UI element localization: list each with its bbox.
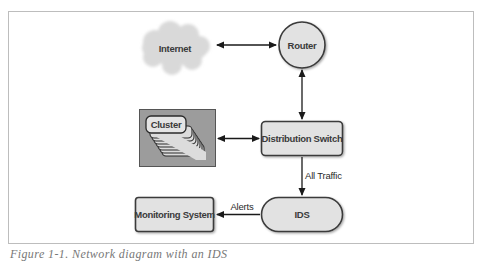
distribution-switch-label: Distribution Switch [262,133,343,144]
distribution-switch-node: Distribution Switch [262,122,343,156]
alerts-label: Alerts [230,201,254,212]
cluster-node: Cluster [140,110,216,167]
internet-label: Internet [159,43,193,54]
monitoring-system-label: Monitoring System [134,209,214,220]
ids-label: IDS [295,209,310,220]
ids-node: IDS [262,198,343,232]
monitoring-system-node: Monitoring System [134,198,214,232]
cluster-label: Cluster [151,119,182,130]
figure-caption: Figure 1-1. Network diagram with an IDS [10,247,227,262]
router-label: Router [288,40,317,51]
all-traffic-label: All Traffic [305,170,342,181]
router-node: Router [279,22,325,68]
